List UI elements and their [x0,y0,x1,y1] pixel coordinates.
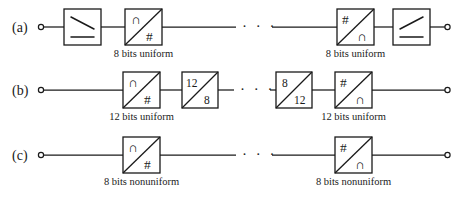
row-a-adc-caption: 8 bits uniform [114,48,174,59]
row-a-lowpass-filter-left [64,9,101,45]
converter-top-left-glyph: # [342,12,349,27]
row-c-adc-caption: 8 bits nonuniform [104,176,179,187]
converter-bottom-right-glyph: # [146,29,153,44]
block-diagram: (a) ∩ # 8 bits uniform [0,0,460,198]
row-b-dac-caption: 12 bits uniform [321,111,386,122]
converter-bottom-right-glyph: ∩ [355,157,365,172]
row-a: (a) ∩ # 8 bits uniform [12,9,450,59]
requantizer-top-left-value: 12 [186,77,198,89]
converter-bottom-right-glyph: ∩ [357,29,367,44]
converter-top-left-glyph: ∩ [128,140,138,155]
converter-bottom-right-glyph: ∩ [355,92,365,107]
converter-top-left-glyph: # [340,140,347,155]
row-b-adc-caption: 12 bits uniform [109,111,174,122]
row-c-dac-caption: 8 bits nonuniform [316,176,391,187]
converter-top-left-glyph: # [340,75,347,90]
filter-box [393,9,430,45]
row-a-output-terminal [445,24,450,29]
row-b-adc-left: ∩ # [123,72,160,108]
converter-bottom-right-glyph: # [144,157,151,172]
row-b-compressor-12-to-8: 12 8 [182,72,218,108]
row-b-ellipsis: · · · [240,81,275,97]
row-b-dac-right: # ∩ [335,72,372,108]
row-b: (b) ∩ # 12 bits uniform 12 8 · · · [12,72,450,122]
row-c-ellipsis: · · · [242,146,277,162]
row-a-dac-caption: 8 bits uniform [326,48,386,59]
converter-top-left-glyph: ∩ [128,75,138,90]
row-a-label: (a) [12,20,28,36]
row-b-input-terminal [38,87,43,92]
row-a-adc-left: ∩ # [125,9,162,45]
row-c-adc-left: ∩ # [123,137,160,173]
row-a-ellipsis: · · · [242,18,277,34]
row-c-input-terminal [38,152,43,157]
row-c-label: (c) [12,148,28,164]
row-a-lowpass-filter-right [393,9,430,45]
requantizer-bottom-right-value: 12 [294,94,306,106]
converter-top-left-glyph: ∩ [131,12,141,27]
row-a-dac-right: # ∩ [337,9,374,45]
row-b-label: (b) [12,83,29,99]
converter-bottom-right-glyph: # [144,92,151,107]
row-a-input-terminal [38,24,43,29]
requantizer-top-left-value: 8 [282,77,288,89]
requantizer-bottom-right-value: 8 [204,94,210,106]
row-c: (c) ∩ # 8 bits nonuniform · · · # ∩ 8 bi [12,137,450,187]
figure-canvas: (a) ∩ # 8 bits uniform [0,0,460,198]
row-b-output-terminal [445,87,450,92]
row-b-expander-8-to-12: 8 12 [276,72,312,108]
row-c-dac-right: # ∩ [335,137,372,173]
filter-box [64,9,101,45]
row-c-output-terminal [445,152,450,157]
